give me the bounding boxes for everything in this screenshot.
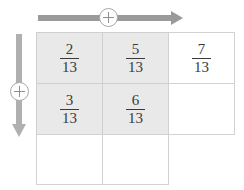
vertical-arrow-shaft bbox=[16, 34, 22, 127]
fraction-numerator: 2 bbox=[64, 42, 76, 58]
grid-cell-empty[interactable] bbox=[168, 83, 235, 135]
fraction-denominator: 13 bbox=[126, 59, 145, 75]
fraction-value: 7 13 bbox=[192, 42, 211, 75]
fraction-denominator: 13 bbox=[126, 110, 145, 126]
fraction-grid: 2 13 5 13 7 13 3 13 bbox=[36, 32, 235, 185]
fraction-numerator: 5 bbox=[130, 42, 142, 58]
grid-cell[interactable]: 3 13 bbox=[36, 83, 103, 135]
vertical-arrow-head bbox=[12, 124, 26, 137]
fraction-denominator: 13 bbox=[192, 59, 211, 75]
grid-cell[interactable]: 5 13 bbox=[102, 32, 169, 84]
grid-cell[interactable]: 6 13 bbox=[102, 83, 169, 135]
fraction-numerator: 6 bbox=[130, 93, 142, 109]
fraction-grid-widget: 2 13 5 13 7 13 3 13 bbox=[0, 0, 244, 190]
fraction-numerator: 3 bbox=[64, 93, 76, 109]
fraction-value: 2 13 bbox=[60, 42, 79, 75]
grid-cell-empty[interactable] bbox=[36, 134, 103, 185]
fraction-denominator: 13 bbox=[60, 59, 79, 75]
fraction-numerator: 7 bbox=[196, 42, 208, 58]
horizontal-arrow-head bbox=[171, 11, 183, 25]
add-column-button[interactable] bbox=[99, 8, 118, 27]
grid-cell[interactable]: 7 13 bbox=[168, 32, 235, 84]
grid-cell-empty[interactable] bbox=[102, 134, 169, 185]
fraction-value: 5 13 bbox=[126, 42, 145, 75]
fraction-value: 6 13 bbox=[126, 93, 145, 126]
fraction-value: 3 13 bbox=[60, 93, 79, 126]
add-row-button[interactable] bbox=[10, 82, 29, 101]
fraction-denominator: 13 bbox=[60, 110, 79, 126]
grid-cell[interactable]: 2 13 bbox=[36, 32, 103, 84]
